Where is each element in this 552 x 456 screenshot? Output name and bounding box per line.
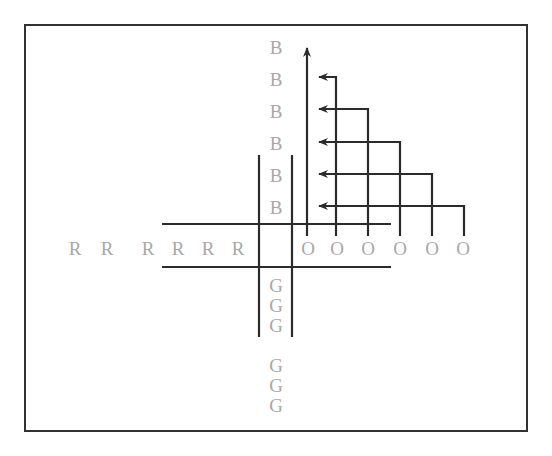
car-label-r: R	[232, 238, 245, 259]
car-label-r: R	[172, 238, 185, 259]
car-label-b: B	[270, 69, 283, 90]
car-label-b: B	[270, 133, 283, 154]
car-label-b: B	[270, 37, 283, 58]
car-label-g: G	[269, 375, 283, 396]
arrow-left-icon	[319, 77, 336, 236]
car-label-r: R	[202, 238, 215, 259]
car-label-o: O	[301, 238, 315, 259]
car-label-o: O	[330, 238, 344, 259]
car-label-b: B	[270, 197, 283, 218]
car-label-o: O	[425, 238, 439, 259]
car-label-b: B	[270, 101, 283, 122]
car-label-b: B	[270, 165, 283, 186]
car-label-g: G	[269, 315, 283, 336]
car-label-r: R	[69, 238, 82, 259]
east-lane-labels: O O O O O O	[301, 238, 470, 259]
route-arrows	[307, 48, 464, 236]
arrow-left-icon	[319, 142, 400, 236]
north-lane-labels: B B B B B B	[270, 37, 283, 218]
car-label-o: O	[456, 238, 470, 259]
car-label-o: O	[361, 238, 375, 259]
car-label-g: G	[269, 355, 283, 376]
south-lane-labels: G G G G G G	[269, 275, 283, 416]
car-label-g: G	[269, 395, 283, 416]
arrow-left-icon	[319, 109, 368, 236]
car-label-g: G	[269, 275, 283, 296]
west-lane-labels: R R R R R R	[69, 238, 245, 259]
intersection-diagram: B B B B B B R R R R R R O O O O O O G G …	[0, 0, 552, 456]
car-label-o: O	[393, 238, 407, 259]
car-label-r: R	[101, 238, 114, 259]
arrow-left-icon	[319, 206, 464, 236]
car-label-g: G	[269, 295, 283, 316]
car-label-r: R	[142, 238, 155, 259]
